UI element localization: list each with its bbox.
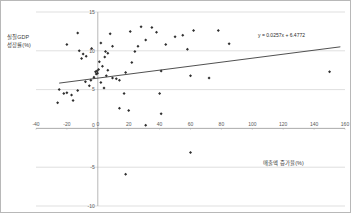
svg-text:160: 160 xyxy=(341,121,350,127)
y-axis-title-line: 실질GDP xyxy=(7,33,31,41)
scatter-chart-container: -40-20020406080100120140160 -10-5510150 … xyxy=(0,0,351,213)
svg-text:40: 40 xyxy=(157,121,163,127)
y-axis-title: 실질GDP 성장률(%) xyxy=(7,33,31,50)
svg-text:15: 15 xyxy=(89,9,95,15)
trendline xyxy=(59,47,340,83)
svg-text:-10: -10 xyxy=(88,203,95,209)
svg-text:120: 120 xyxy=(279,121,288,127)
svg-text:-40: -40 xyxy=(32,121,39,127)
x-tick-labels: -40-20020406080100120140160 xyxy=(32,121,349,127)
svg-text:0: 0 xyxy=(92,122,95,128)
svg-text:80: 80 xyxy=(219,121,225,127)
trendline-equation-label: y = 0.0257x + 6.4772 xyxy=(258,32,305,38)
svg-text:100: 100 xyxy=(248,121,257,127)
gridlines xyxy=(36,12,345,206)
svg-text:0: 0 xyxy=(96,121,99,127)
axis-lines xyxy=(36,12,345,206)
svg-text:140: 140 xyxy=(310,121,319,127)
svg-text:5: 5 xyxy=(92,86,95,92)
scatter-points xyxy=(56,25,331,175)
svg-text:-5: -5 xyxy=(90,164,95,170)
svg-text:-20: -20 xyxy=(63,121,70,127)
y-tick-labels: -10-5510150 xyxy=(88,9,95,209)
x-axis-title: 매출액 증가율(%) xyxy=(263,159,304,167)
svg-text:20: 20 xyxy=(126,121,132,127)
svg-text:60: 60 xyxy=(188,121,194,127)
y-axis-title-line: 성장률(%) xyxy=(7,41,31,49)
